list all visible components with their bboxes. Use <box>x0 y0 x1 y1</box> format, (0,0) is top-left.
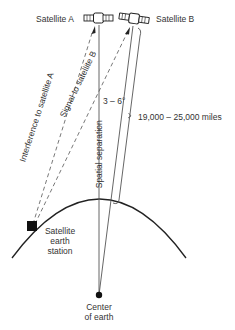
center-label-line-2: of earth <box>79 312 119 322</box>
separation-label: Spatial separation <box>95 120 104 188</box>
earth-station-icon <box>27 221 37 231</box>
satellite-a-label: Satellite A <box>36 15 74 24</box>
signal-line <box>35 31 128 224</box>
center-label-line-1: Center <box>79 302 119 312</box>
distance-bracket <box>113 28 141 204</box>
interference-arrowhead <box>92 26 96 34</box>
diagram-canvas <box>0 0 235 330</box>
earth-station-label-line-1: Satellite <box>43 226 77 236</box>
satellite-a-icon <box>84 13 113 23</box>
signal-arrowhead <box>125 27 130 35</box>
earth-station-label: Satellite earth station <box>43 226 77 256</box>
angle-label: 3 – 6° <box>103 97 125 106</box>
earth-station-label-line-2: earth <box>43 236 77 246</box>
satellite-b-label: Satellite B <box>156 15 194 24</box>
center-of-earth-label: Center of earth <box>79 302 119 322</box>
distance-label: 19,000 – 25,000 miles <box>138 113 222 122</box>
satellite-b-icon <box>119 11 150 25</box>
line-center-to-satellite-b <box>99 26 133 295</box>
earth-station-label-line-3: station <box>43 246 77 256</box>
center-of-earth-dot <box>96 292 102 298</box>
